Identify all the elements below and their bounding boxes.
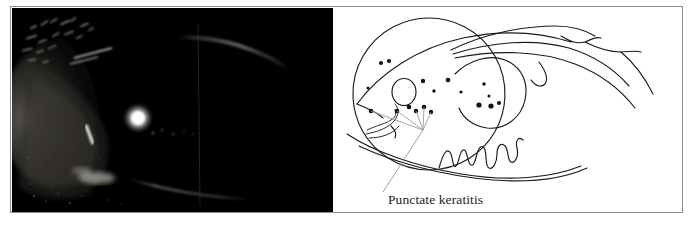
line-drawing-panel: Punctate keratitis xyxy=(333,8,682,212)
eye-schematic-drawing xyxy=(333,8,682,212)
photograph-image xyxy=(12,8,333,212)
figure-container: Punctate keratitis xyxy=(0,0,693,227)
punctate-keratitis-label: Punctate keratitis xyxy=(388,192,483,208)
slit-lamp-photograph-panel xyxy=(12,8,333,212)
drawing-background xyxy=(333,8,682,212)
corneal-light-reflex xyxy=(122,102,154,134)
